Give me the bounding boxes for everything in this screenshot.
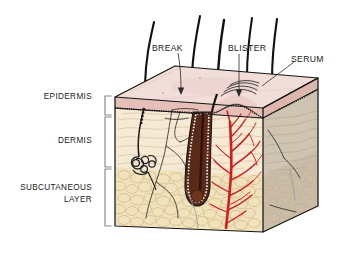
callout-label-break: BREAK — [152, 43, 183, 53]
callout-label-serum: SERUM — [291, 54, 324, 64]
layer-label-dermis: DERMIS — [58, 136, 92, 145]
hair-shaft-icon — [192, 16, 200, 74]
bracket-subcutaneous — [105, 169, 111, 226]
bracket-epidermis — [105, 96, 111, 115]
layer-label-epidermis: EPIDERMIS — [44, 92, 92, 101]
hair-shaft-icon — [272, 19, 277, 80]
callout-label-blister: BLISTER — [228, 43, 266, 53]
skin-diagram-canvas: EPIDERMIS DERMIS SUBCUTANEOUS LAYER BREA… — [0, 0, 338, 255]
layer-bracket-group — [105, 96, 111, 226]
bracket-dermis — [105, 117, 111, 167]
hair-shaft-icon — [145, 22, 154, 84]
skin-cross-section-figure: EPIDERMIS DERMIS SUBCUTANEOUS LAYER BREA… — [0, 0, 338, 255]
layer-label-subcutaneous-line2: LAYER — [64, 195, 92, 204]
layer-label-subcutaneous: SUBCUTANEOUS — [20, 183, 92, 192]
